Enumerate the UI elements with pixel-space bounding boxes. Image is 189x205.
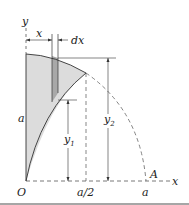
x-dimension-label: x: [36, 27, 43, 40]
dx-label: dx: [71, 34, 85, 47]
y-axis-label: y: [21, 15, 29, 28]
y1-arrow-bottom: [67, 177, 70, 181]
y2-arrow-top: [107, 58, 110, 62]
origin-label: O: [17, 186, 26, 199]
area-diagram: x dx y1 y2 y x O a a/2 a A: [0, 0, 189, 205]
height-a-label: a: [18, 112, 25, 125]
y2-arrow-bottom: [107, 177, 110, 181]
point-a-label: A: [149, 168, 158, 181]
x-dim-arrow-right: [48, 39, 52, 42]
a-end-label: a: [142, 186, 149, 199]
dx-arrow-head: [58, 39, 62, 42]
x-axis-label: x: [172, 175, 179, 188]
a-half-label: a/2: [77, 186, 94, 199]
y1-arrow-top: [67, 100, 70, 104]
x-dim-arrow-left: [26, 39, 30, 42]
